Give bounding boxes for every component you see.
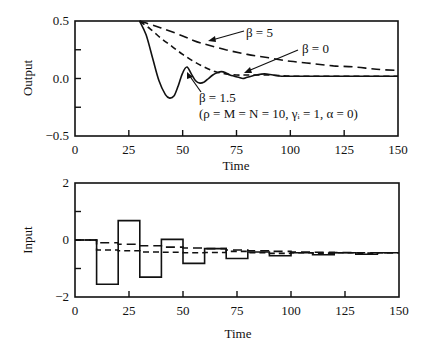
input-x-tick-label: 125 — [335, 303, 355, 318]
input-series-0-line — [75, 240, 399, 253]
output-x-tick-label: 25 — [122, 142, 135, 157]
input-x-tick-label: 75 — [231, 303, 244, 318]
input-x-tick-label: 150 — [389, 303, 409, 318]
beta15-label: β = 1.5 — [199, 90, 236, 105]
beta0-arrow — [248, 50, 298, 71]
output-x-tick-label: 75 — [230, 142, 243, 157]
input-y-axis-title: Input — [20, 226, 35, 254]
output-x-axis-title: Time — [223, 158, 250, 173]
output-y-axis-title: Output — [20, 60, 35, 97]
output-x-tick-label: 50 — [176, 142, 189, 157]
output-x-tick-label: 125 — [334, 142, 354, 157]
output-plot: 0255075100125150 −0.50.00.5 Time Output … — [20, 13, 408, 173]
output-y-tick-label: 0.0 — [53, 71, 69, 86]
output-x-tick-label: 150 — [388, 142, 408, 157]
output-x-tick-label: 0 — [72, 142, 79, 157]
beta5-label: β = 5 — [246, 25, 273, 40]
input-x-tick-label: 100 — [281, 303, 301, 318]
output-x-tick-label: 100 — [281, 142, 301, 157]
beta5-arrowhead — [208, 36, 216, 42]
output-y-tick-label: 0.5 — [53, 13, 69, 28]
input-y-tick-label: 0 — [63, 232, 70, 247]
input-x-tick-label: 25 — [123, 303, 136, 318]
parameters-note: (ρ = M = N = 10, γᵢ = 1, α = 0) — [199, 106, 358, 121]
input-series-5-line — [75, 240, 399, 253]
input-x-axis-title: Time — [225, 326, 252, 341]
beta0-label: β = 0 — [302, 41, 329, 56]
output-y-tick-label: −0.5 — [45, 128, 69, 143]
input-x-tick-label: 0 — [72, 303, 79, 318]
beta5-arrow — [212, 31, 244, 40]
input-plot: 0255075100125150 −202 Time Input — [20, 175, 409, 341]
figure: 0255075100125150 −0.50.00.5 Time Output … — [0, 0, 429, 358]
beta0-arrowhead — [244, 67, 252, 73]
input-y-tick-label: 2 — [63, 175, 70, 190]
input-x-tick-label: 50 — [177, 303, 190, 318]
input-y-tick-label: −2 — [55, 289, 69, 304]
input-plot-frame — [75, 183, 399, 297]
